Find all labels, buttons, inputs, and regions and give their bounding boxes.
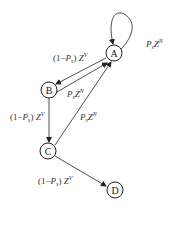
edge-label-c-d: (1−Ps) ZV xyxy=(38,175,72,187)
edge-a-a xyxy=(111,13,132,49)
node-c: C xyxy=(40,143,56,159)
node-a: A xyxy=(106,45,122,61)
svg-text:B: B xyxy=(46,85,53,96)
edge-label-b-c: (1−Ps) ZV xyxy=(10,111,44,123)
svg-text:D: D xyxy=(111,185,118,196)
svg-text:C: C xyxy=(45,146,52,157)
edge-label-a-b: (1−Ps) ZV xyxy=(53,52,87,64)
edge-label-a-a: PsZN xyxy=(146,38,163,50)
node-d: D xyxy=(107,182,123,198)
edge-label-b-a: PsZN xyxy=(67,88,84,100)
edge-label-c-a: PsZN xyxy=(80,111,97,123)
node-b: B xyxy=(41,82,57,98)
edge-c-a xyxy=(55,62,111,145)
svg-text:A: A xyxy=(110,48,118,59)
